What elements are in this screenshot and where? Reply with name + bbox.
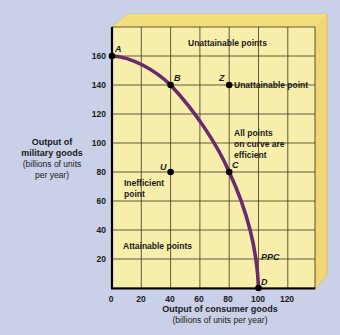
y-tick-20: 20 [97,254,107,264]
y-tick-120: 120 [92,109,106,119]
annotation-efficient-line1: All points [234,128,273,138]
point-z [226,82,233,89]
x-tick-40: 40 [165,294,175,304]
x-tick-20: 20 [136,294,146,304]
label-a: A [114,44,122,54]
label-d: D [261,277,268,287]
x-tick-60: 60 [194,294,204,304]
x-axis-subtitle: (billions of units per year) [140,315,300,326]
label-u: U [160,162,167,172]
x-axis-label: Output of consumer goods (billions of un… [140,304,300,326]
y-tick-160: 160 [92,51,106,61]
annotation-efficient-line2: on curve are [234,139,285,149]
ppc-figure: 160 140 120 100 80 60 40 20 0 20 40 60 8… [0,0,340,335]
y-axis-subtitle-line2: per year) [10,170,94,181]
x-tick-0: 0 [109,294,114,304]
y-tick-60: 60 [97,196,107,206]
annotation-efficient-line3: efficient [234,150,267,160]
label-c: C [232,160,239,170]
x-tick-80: 80 [223,294,233,304]
y-tick-140: 140 [92,80,106,90]
y-axis-label: Output of military goods (billions of un… [10,137,94,181]
label-z: Z [218,73,225,83]
annotation-ppc: PPC [261,252,280,262]
point-b [167,82,174,89]
y-axis-title-line1: Output of [10,137,94,148]
annotation-unattainable-points: Unattainable points [188,38,267,48]
annotation-inefficient-line2: point [124,189,145,199]
y-axis-title-line2: military goods [10,148,94,159]
x-axis-title: Output of consumer goods [140,304,300,315]
x-tick-100: 100 [251,294,265,304]
panel-bevel-top [112,14,327,27]
y-tick-40: 40 [97,225,107,235]
label-b: B [174,73,181,83]
annotation-attainable-points: Attainable points [123,241,192,251]
y-tick-80: 80 [97,167,107,177]
point-u [167,169,174,176]
y-axis-subtitle-line1: (billions of units [10,159,94,170]
x-tick-120: 120 [280,294,294,304]
annotation-inefficient-line1: Inefficient [124,178,164,188]
annotation-unattainable-point: Unattainable point [234,80,308,90]
